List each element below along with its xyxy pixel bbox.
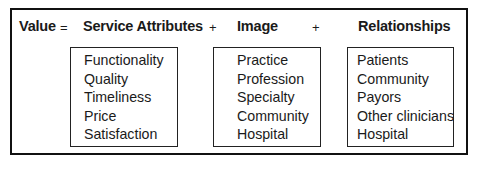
list-item: Hospital — [237, 125, 320, 144]
list-item: Payors — [357, 88, 453, 107]
list-item: Other clinicians — [357, 107, 453, 126]
list-item: Patients — [357, 51, 453, 70]
list-item: Functionality — [84, 51, 177, 70]
image-box: Practice Profession Specialty Community … — [213, 47, 321, 147]
list-item: Community — [357, 70, 453, 89]
list-item: Practice — [237, 51, 320, 70]
list-item: Quality — [84, 70, 177, 89]
relationships-heading: Relationships — [358, 18, 450, 34]
list-item: Timeliness — [84, 88, 177, 107]
image-heading: Image — [237, 18, 278, 34]
list-item: Community — [237, 107, 320, 126]
list-item: Satisfaction — [84, 125, 177, 144]
value-label: Value — [19, 18, 56, 34]
list-item: Profession — [237, 70, 320, 89]
list-item: Hospital — [357, 125, 453, 144]
list-item: Specialty — [237, 88, 320, 107]
plus-sign-2: + — [312, 20, 320, 35]
service-attributes-box: Functionality Quality Timeliness Price S… — [70, 47, 178, 147]
equals-sign: = — [60, 20, 68, 35]
list-item: Price — [84, 107, 177, 126]
plus-sign-1: + — [209, 20, 217, 35]
service-attributes-heading: Service Attributes — [83, 18, 203, 34]
relationships-box: Patients Community Payors Other clinicia… — [347, 47, 454, 147]
